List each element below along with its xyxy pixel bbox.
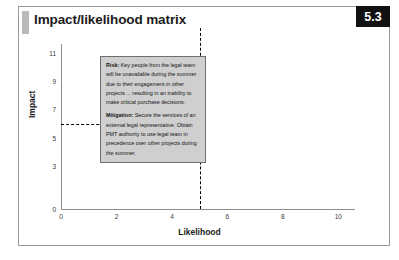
y-axis-line: [61, 44, 62, 209]
x-axis-tick-label: 4: [170, 213, 174, 220]
risk-callout-box: Risk: Key people from the legal team wil…: [100, 56, 206, 163]
y-axis-tick-label: 3: [52, 163, 56, 170]
slide-number-badge: 5.3: [356, 6, 390, 27]
y-axis-tick-label: 11: [49, 49, 56, 56]
callout-mitigation-label: Mitigation:: [106, 112, 133, 118]
callout-risk-text: Key people from the legal team will be u…: [106, 62, 196, 105]
y-axis-tick-label: 9: [52, 77, 56, 84]
y-axis-tick-label: 0: [52, 206, 56, 213]
y-axis-tick-label: 7: [52, 106, 56, 113]
x-axis-tick-label: 6: [226, 213, 230, 220]
callout-mitigation-text: Secure the services of an external legal…: [106, 112, 197, 155]
y-axis-title: Impact: [27, 91, 37, 118]
callout-risk-paragraph: Risk: Key people from the legal team wil…: [106, 61, 201, 107]
page-title: Impact/likelihood matrix: [34, 12, 186, 27]
x-axis-tick-label: 8: [281, 213, 285, 220]
x-axis-tick-label: 0: [59, 213, 63, 220]
callout-risk-label: Risk:: [106, 62, 119, 68]
y-axis-tick-label: 5: [52, 134, 56, 141]
x-axis-line: [61, 209, 355, 210]
x-axis-tick-label: 10: [335, 213, 342, 220]
x-axis-title: Likelihood: [0, 227, 399, 237]
slide-canvas: Impact/likelihood matrix 5.3 0357911 024…: [0, 0, 399, 260]
x-axis-tick-label: 2: [115, 213, 119, 220]
callout-mitigation-paragraph: Mitigation: Secure the services of an ex…: [106, 111, 201, 157]
title-accent-bar: [22, 11, 29, 34]
